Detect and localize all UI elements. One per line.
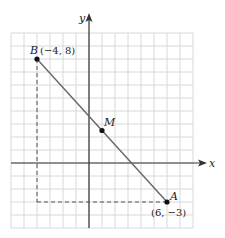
point-a-coord: (6, −3) <box>151 207 186 218</box>
point-b-coord: (−4, 8) <box>40 45 75 56</box>
point-b <box>34 56 39 61</box>
point-b-label: B <box>29 44 38 57</box>
x-axis-label: x <box>209 157 216 170</box>
point-a-label: A <box>169 190 178 203</box>
point-a <box>164 199 169 204</box>
coordinate-plane: x y B (−4, 8) M A (6, −3) <box>0 0 225 238</box>
point-m-label: M <box>103 116 116 129</box>
y-axis-label: y <box>78 12 86 25</box>
